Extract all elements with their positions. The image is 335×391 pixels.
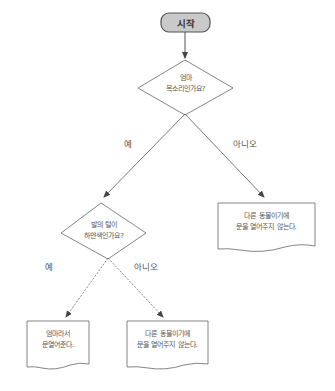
decision1-no-label: 아니오 [233, 137, 257, 149]
outcome-no2-text: 다른 동물이기에 문을 열어주지 않는다. [127, 329, 208, 351]
decision1-line2: 목소리인가요? [140, 84, 231, 95]
decision2-yes-label: 예 [45, 260, 53, 272]
outcome-no1-line2: 문을 열어주지 않는다. [218, 222, 315, 233]
outcome-no2-line1: 다른 동물이기에 [127, 329, 208, 340]
decision2-line1: 발의 털이 [62, 220, 146, 231]
outcome-yes2-line2: 문열어준다. [27, 340, 89, 351]
start-label: 시작 [161, 16, 210, 30]
outcome-no1-line1: 다른 동물이기에 [218, 211, 315, 222]
decision1-yes-label: 예 [124, 137, 132, 149]
decision2-line2: 하얀색인가요? [62, 231, 146, 242]
decision1-text: 엄마 목소리인가요? [140, 73, 231, 95]
outcome-no1-text: 다른 동물이기에 문을 열어주지 않는다. [218, 211, 315, 233]
arrow-decision1-no [185, 114, 264, 197]
outcome-yes2-line1: 엄마라서 [27, 329, 89, 340]
decision2-no-label: 아니오 [134, 260, 158, 272]
arrow-decision2-yes [66, 258, 108, 317]
arrow-decision1-yes [104, 114, 185, 197]
decision2-text: 발의 털이 하얀색인가요? [62, 220, 146, 242]
decision1-line1: 엄마 [140, 73, 231, 84]
outcome-yes2-text: 엄마라서 문열어준다. [27, 329, 89, 351]
outcome-no2-line2: 문을 열어주지 않는다. [127, 340, 208, 351]
